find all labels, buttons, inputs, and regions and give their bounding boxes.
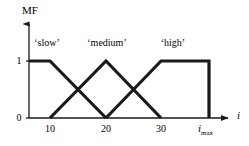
y-tick-label-0: 0 (14, 113, 24, 123)
x-tick-label-10: 10 (39, 124, 61, 134)
medium-label: ‘medium’ (78, 38, 136, 48)
membership-function-figure: MF 1 0 10 20 30 imax i ‘slow’ ‘medium’ ‘… (0, 0, 249, 146)
slow-membership-curve (29, 61, 106, 118)
x-tick-label-30: 30 (150, 124, 172, 134)
y-axis-label: MF (22, 5, 38, 16)
slow-label: ‘slow’ (24, 38, 70, 48)
x-tick-label-20: 20 (95, 124, 117, 134)
y-tick-label-1: 1 (14, 56, 24, 66)
high-label: ‘high’ (150, 38, 196, 48)
medium-membership-curve (50, 61, 161, 118)
high-membership-curve (106, 61, 209, 118)
x-axis-label: i (237, 110, 240, 121)
imax-subscript: max (201, 129, 213, 137)
x-tick-label-imax: imax (198, 123, 213, 137)
